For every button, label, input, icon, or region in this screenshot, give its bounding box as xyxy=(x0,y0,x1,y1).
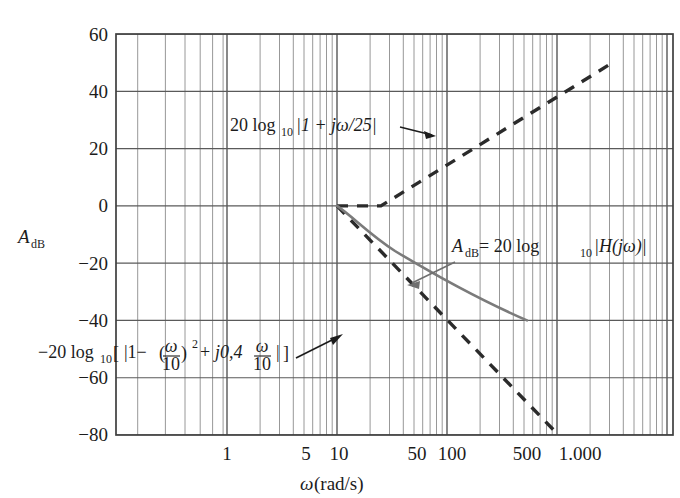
plot-grid xyxy=(116,34,673,435)
annotation-denominator-plus: + xyxy=(200,342,210,362)
annotation-denominator-abs-close: | xyxy=(276,342,280,362)
annotation-denominator-arrow xyxy=(296,334,343,358)
y-tick-label: 0 xyxy=(99,195,109,216)
x-tick-label: 100 xyxy=(438,443,467,464)
annotation-numerator-lead-sub: 10 xyxy=(281,125,293,139)
annotation-denominator-abs-open: |1− xyxy=(124,342,147,362)
annotation-denominator-frac2-den: 10 xyxy=(253,354,271,374)
y-tick-label: −80 xyxy=(78,424,108,445)
x-axis-title-unit: (rad/s) xyxy=(314,473,364,495)
figure-stage: 60 40 20 0 −20 −40 −60 −80 A dB 1 5 10 5… xyxy=(0,0,680,498)
y-axis-title: A dB xyxy=(16,226,45,251)
y-axis-ticks: 60 40 20 0 −20 −40 −60 −80 xyxy=(78,24,108,445)
annotation-response-eq: = 20 log xyxy=(479,236,539,256)
x-tick-label: 50 xyxy=(408,443,427,464)
y-tick-label: 40 xyxy=(89,81,108,102)
y-tick-label: 60 xyxy=(89,24,108,45)
annotation-denominator-jterm: j0,4 xyxy=(213,342,243,362)
annotation-numerator-body: |1 + jω/25| xyxy=(296,115,377,135)
grid-minor-vertical xyxy=(138,34,663,435)
y-tick-label: −20 xyxy=(78,253,108,274)
annotation-denominator-frac1-den: 10 xyxy=(162,354,180,374)
x-tick-label: 500 xyxy=(513,443,542,464)
plot-frame xyxy=(116,34,673,435)
x-axis-title-symbol: ω xyxy=(300,473,313,494)
annotation-response-a-sub: dB xyxy=(465,246,479,260)
x-tick-label: 1.000 xyxy=(559,443,602,464)
y-tick-label: 20 xyxy=(89,138,108,159)
x-axis-ticks: 1 5 10 50 100 500 1.000 xyxy=(222,443,601,464)
y-tick-label: −40 xyxy=(78,310,108,331)
annotation-numerator-asymptote: 20 log 10 |1 + jω/25| xyxy=(230,115,436,139)
annotation-denominator-lead: −20 log xyxy=(38,342,94,362)
bode-plot-figure: 60 40 20 0 −20 −40 −60 −80 A dB 1 5 10 5… xyxy=(0,0,680,498)
annotation-denominator-close-bracket: ] xyxy=(283,343,289,363)
y-tick-label: −60 xyxy=(78,367,108,388)
x-axis-title: ω (rad/s) xyxy=(300,473,364,495)
annotation-denominator-open-bracket: [ xyxy=(113,343,119,363)
annotation-denominator-frac2-num: ω xyxy=(256,336,269,356)
annotation-response-curve: A dB = 20 log 10 |H(jω)| xyxy=(407,236,647,289)
annotation-response-eq-sub: 10 xyxy=(580,246,592,260)
annotation-numerator-lead: 20 log xyxy=(230,115,276,135)
y-axis-title-subscript: dB xyxy=(31,237,45,251)
x-tick-label: 5 xyxy=(301,443,311,464)
annotation-denominator-frac1-num: ω xyxy=(165,336,178,356)
annotation-response-tail: |H(jω)| xyxy=(594,236,647,257)
curve-numerator-asymptote xyxy=(337,63,612,206)
x-tick-label: 10 xyxy=(330,443,349,464)
grid-horizontal xyxy=(116,34,673,435)
annotation-denominator-paren-close: ) xyxy=(181,343,187,364)
annotation-denominator-lead-sub: 10 xyxy=(100,352,112,366)
y-axis-title-symbol: A xyxy=(16,226,30,247)
annotation-denominator-power: 2 xyxy=(192,337,198,351)
annotation-numerator-arrow xyxy=(400,127,436,139)
annotation-response-a: A xyxy=(451,236,464,256)
x-tick-label: 1 xyxy=(222,443,232,464)
